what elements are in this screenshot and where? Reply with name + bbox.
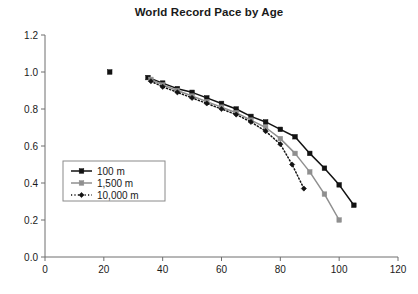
data-point [290, 162, 295, 167]
data-point [301, 186, 306, 191]
data-point [337, 183, 342, 188]
series-line [148, 78, 354, 206]
x-axis-tick-label: 80 [275, 264, 287, 275]
legend-label: 1,500 m [97, 178, 133, 189]
chart-legend[interactable]: 100 m1,500 m10,000 m [63, 161, 165, 201]
x-axis-tick-label: 40 [157, 264, 169, 275]
chart-container: World Record Pace by Age 0.00.20.40.60.8… [0, 0, 418, 294]
data-point [337, 218, 342, 223]
data-point [278, 127, 283, 132]
axes: 0.00.20.40.60.81.01.2020406080100120 [24, 30, 407, 276]
y-axis-tick-label: 0.4 [24, 178, 38, 189]
data-point [307, 170, 312, 175]
legend-swatch-marker [79, 169, 84, 174]
x-axis-tick-label: 60 [216, 264, 228, 275]
data-point [107, 70, 112, 75]
data-point [307, 151, 312, 156]
series-3 [148, 79, 306, 191]
legend-label: 10,000 m [97, 190, 139, 201]
y-axis-tick-label: 1.0 [24, 67, 38, 78]
series-line [151, 79, 339, 220]
data-point [352, 203, 357, 208]
series-line [151, 81, 304, 188]
y-axis-tick-label: 0.2 [24, 215, 38, 226]
data-point [278, 136, 283, 141]
legend-label: 100 m [97, 166, 125, 177]
plot-area: 0.00.20.40.60.81.01.2020406080100120 100… [0, 0, 418, 294]
series-2 [149, 77, 342, 222]
y-axis-tick-label: 0.8 [24, 104, 38, 115]
legend-swatch-marker [79, 181, 84, 186]
data-point [263, 120, 268, 125]
y-axis-tick-label: 0.0 [24, 252, 38, 263]
x-axis-tick-label: 20 [98, 264, 110, 275]
data-point [293, 151, 298, 156]
data-point [322, 192, 327, 197]
x-axis-tick-label: 120 [390, 264, 407, 275]
x-axis-tick-label: 0 [42, 264, 48, 275]
data-point [322, 166, 327, 171]
data-point [293, 134, 298, 139]
y-axis-tick-label: 1.2 [24, 30, 38, 41]
x-axis-tick-label: 100 [331, 264, 348, 275]
y-axis-tick-label: 0.6 [24, 141, 38, 152]
